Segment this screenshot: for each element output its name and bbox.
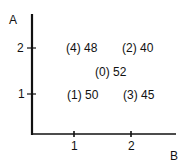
y-tick-2: 2 — [17, 42, 24, 54]
axes — [0, 0, 189, 164]
point-3: (3) 45 — [123, 89, 154, 101]
point-1: (1) 50 — [67, 89, 98, 101]
axis-label-a: A — [9, 14, 17, 26]
y-tick-1: 1 — [18, 88, 25, 100]
x-tick-2: 2 — [128, 140, 135, 152]
point-0: (0) 52 — [95, 66, 126, 78]
point-2: (2) 40 — [122, 42, 153, 54]
x-tick-1: 1 — [71, 140, 78, 152]
axis-label-b: B — [170, 150, 178, 162]
point-4: (4) 48 — [66, 42, 97, 54]
